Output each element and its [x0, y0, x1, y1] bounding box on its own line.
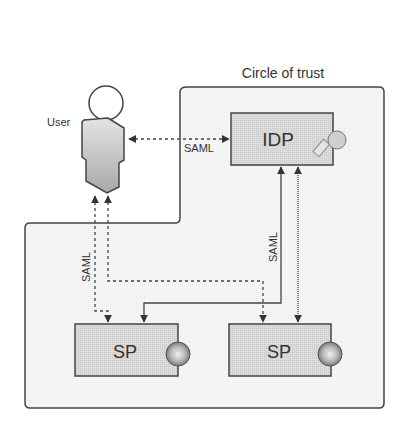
saml-label-user-sp: SAML — [80, 252, 92, 282]
globe-icon — [318, 342, 342, 366]
circle-of-trust-diagram: Circle of trust User IDP SP SP — [0, 0, 414, 428]
idp-label: IDP — [262, 129, 294, 150]
saml-label-idp-sp: SAML — [267, 232, 279, 262]
sp-left-label: SP — [113, 342, 137, 362]
globe-icon — [166, 342, 190, 366]
region-label: Circle of trust — [242, 65, 325, 81]
person-icon — [82, 86, 124, 193]
user-actor: User — [47, 86, 124, 193]
sp-right-label: SP — [267, 342, 291, 362]
user-label: User — [47, 116, 71, 128]
idp-node: IDP — [231, 113, 346, 165]
sp-right-node: SP — [229, 324, 342, 376]
sp-left-node: SP — [75, 324, 190, 376]
saml-label-user-idp: SAML — [184, 142, 214, 154]
